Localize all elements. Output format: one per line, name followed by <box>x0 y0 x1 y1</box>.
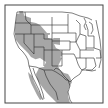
range-map: Species range map Western North America … <box>0 0 108 108</box>
map-canvas <box>0 0 108 108</box>
